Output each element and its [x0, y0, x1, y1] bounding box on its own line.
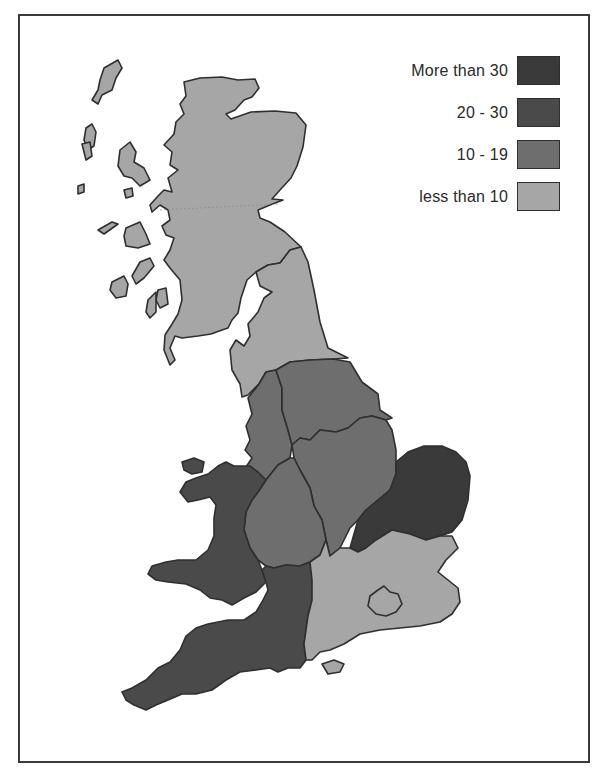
- island-mull: [124, 222, 150, 248]
- island-coll: [98, 222, 118, 234]
- legend-swatch: [517, 140, 560, 169]
- legend-label: More than 30: [411, 62, 508, 80]
- legend-swatch: [517, 98, 560, 127]
- island-arran: [156, 288, 168, 308]
- island-islay: [110, 276, 128, 298]
- island-lewis: [92, 60, 122, 104]
- legend-label: 20 - 30: [457, 104, 508, 122]
- legend-label: less than 10: [419, 188, 508, 206]
- map-legend: More than 30 20 - 30 10 - 19 less than 1…: [370, 54, 560, 222]
- legend-item-less-than-10: less than 10: [370, 180, 560, 213]
- legend-item-10-19: 10 - 19: [370, 138, 560, 171]
- legend-item-more-than-30: More than 30: [370, 54, 560, 87]
- island-isle-of-wight: [322, 660, 344, 674]
- legend-swatch: [517, 182, 560, 211]
- legend-item-20-30: 20 - 30: [370, 96, 560, 129]
- island-harris: [82, 142, 92, 160]
- legend-swatch: [517, 56, 560, 85]
- island-anglesey: [182, 458, 204, 474]
- island-jura: [132, 258, 154, 284]
- island-barra: [78, 184, 84, 194]
- island-kintyre: [146, 292, 156, 318]
- legend-label: 10 - 19: [457, 146, 508, 164]
- island-rum: [124, 188, 133, 198]
- island-skye: [118, 142, 150, 186]
